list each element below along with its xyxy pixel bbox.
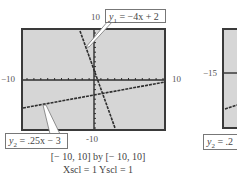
- graph2-y2-equation-label: y2 = .2: [203, 134, 237, 150]
- graph2-y2-equation-text: = .2: [215, 136, 233, 147]
- graph2-plot: [0, 0, 237, 185]
